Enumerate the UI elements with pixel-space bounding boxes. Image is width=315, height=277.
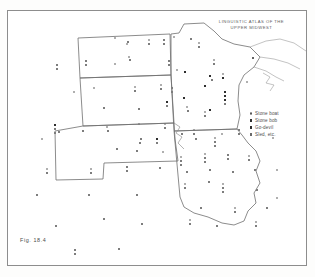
map-symbol-sled	[189, 223, 191, 225]
map-symbol-filled	[156, 138, 158, 140]
map-symbol-sled	[222, 191, 224, 193]
map-symbol-filled	[224, 99, 226, 101]
map-symbol-sled	[164, 127, 166, 129]
map-symbol-sled	[163, 43, 165, 45]
map-symbol-sled	[85, 64, 87, 66]
figure-title: LINGUISTIC ATLAS OF THE UPPER MIDWEST	[194, 19, 309, 30]
map-figure-page: LINGUISTIC ATLAS OF THE UPPER MIDWEST St…	[0, 0, 315, 277]
map-symbol-filled	[54, 124, 56, 126]
map-symbol-sled	[187, 110, 189, 112]
figure-title-line-2: UPPER MIDWEST	[194, 25, 309, 31]
map-symbol-sled	[136, 150, 138, 152]
map-symbol-sled	[36, 194, 38, 196]
map-symbol-sled	[116, 148, 118, 150]
map-symbol-sled	[227, 154, 229, 156]
map-symbol-sled	[198, 46, 200, 48]
open-circle-icon	[247, 112, 255, 115]
map-symbol-sled	[195, 138, 197, 140]
map-symbol-sled	[180, 164, 182, 166]
map-symbol-sled	[216, 225, 218, 227]
map-symbol-sled	[103, 107, 105, 109]
map-symbol-filled	[204, 85, 206, 87]
map-symbol-filled	[224, 91, 226, 93]
map-symbol-sled	[56, 64, 58, 66]
map-symbol-sled	[255, 225, 257, 227]
map-symbol-sled	[159, 167, 161, 169]
map-legend: Stone boat Stone bob Go-devil Sled, etc.	[247, 110, 279, 138]
map-symbol-sled	[222, 187, 224, 189]
map-symbol-filled	[209, 109, 211, 111]
map-symbol-sled	[208, 181, 210, 183]
state-outline-north-dakota	[78, 34, 171, 78]
legend-entry-stone-boat: Stone boat	[247, 110, 279, 117]
map-symbol-sled	[139, 142, 141, 144]
map-symbol-sled	[148, 43, 150, 45]
map-symbol-sled	[136, 194, 138, 196]
filled-square-icon	[247, 119, 255, 121]
map-symbol-sled	[141, 223, 143, 225]
map-symbol-sled	[160, 88, 162, 90]
map-symbol-sled	[209, 169, 211, 171]
map-symbol-sled	[54, 128, 56, 130]
filled-square-icon-2	[247, 126, 255, 128]
map-symbol-sled	[238, 129, 240, 131]
legend-label-go-devil: Go-devil	[255, 125, 273, 130]
map-symbol-sled	[227, 158, 229, 160]
legend-label-stone-bob: Stone bob	[255, 118, 277, 123]
map-symbol-sled	[140, 138, 142, 140]
lake-superior-detail	[263, 73, 274, 91]
map-symbol-sled	[266, 207, 268, 209]
map-symbol-sled	[200, 207, 202, 209]
map-symbol-sled	[129, 59, 131, 61]
map-symbol-sled	[190, 38, 192, 40]
map-symbol-sled	[107, 130, 109, 132]
map-symbol-filled	[184, 71, 186, 73]
map-symbol-sled	[138, 108, 140, 110]
map-symbol-sled	[134, 90, 136, 92]
state-outline-south-dakota	[80, 75, 174, 126]
map-symbol-sled	[256, 189, 258, 191]
map-symbol-sled	[118, 248, 120, 250]
map-symbol-sled	[248, 159, 250, 161]
map-symbol-sled	[184, 187, 186, 189]
figure-frame: LINGUISTIC ATLAS OF THE UPPER MIDWEST St…	[7, 10, 307, 266]
map-symbol-sled	[193, 133, 195, 135]
map-symbol-sled	[204, 157, 206, 159]
map-symbol-sled	[55, 225, 57, 227]
map-symbol-filled	[224, 95, 226, 97]
map-symbol-sled	[232, 171, 234, 173]
map-symbol-sled	[90, 172, 92, 174]
map-symbol-sled	[85, 60, 87, 62]
map-symbol-sled	[238, 133, 240, 135]
map-symbol-sled	[214, 141, 216, 143]
map-symbol-sled	[58, 131, 60, 133]
figure-number-label: Fig. 18.4	[20, 237, 46, 243]
map-symbol-sled	[204, 161, 206, 163]
map-symbol-sled	[126, 166, 128, 168]
map-symbol-sled	[168, 60, 170, 62]
map-symbol-sled	[186, 171, 188, 173]
map-symbol-sled	[168, 64, 170, 66]
legend-label-stone-boat: Stone boat	[255, 111, 279, 116]
map-symbol-sled	[163, 39, 165, 41]
map-symbol-sled	[211, 79, 213, 81]
map-symbol-sled	[171, 87, 173, 89]
map-symbol-sled	[126, 170, 128, 172]
map-symbol-sled	[224, 103, 226, 105]
map-symbol-sled	[82, 130, 84, 132]
map-symbol-sled	[180, 160, 182, 162]
map-symbol-sled	[171, 91, 173, 93]
map-symbol-sled	[214, 145, 216, 147]
map-symbol-filled	[222, 77, 224, 79]
map-symbol-sled	[181, 133, 183, 135]
state-outline-nebraska	[55, 123, 178, 180]
map-symbol-sled	[54, 132, 56, 134]
map-symbol-sled	[204, 115, 206, 117]
map-symbol-sled	[213, 63, 215, 65]
map-symbol-sled	[103, 218, 105, 220]
legend-entry-go-devil: Go-devil	[247, 124, 279, 131]
map-symbol-filled	[166, 101, 168, 103]
map-symbol-sled	[156, 142, 158, 144]
legend-entry-stone-bob: Stone bob	[247, 117, 279, 124]
map-symbol-sled	[254, 169, 256, 171]
